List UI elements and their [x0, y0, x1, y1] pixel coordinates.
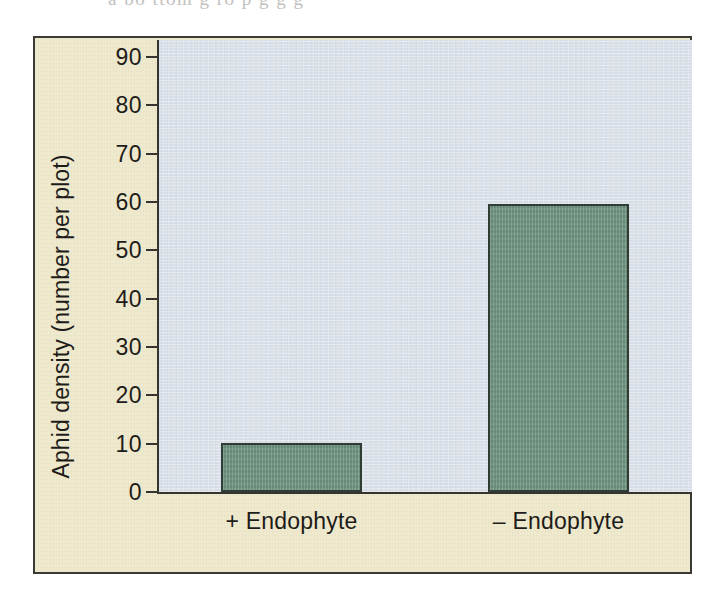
- y-axis-tick: [146, 201, 157, 203]
- bar-1: [221, 443, 362, 492]
- y-axis-tick: [146, 491, 157, 493]
- figure-frame: 0102030405060708090 Aphid density (numbe…: [33, 36, 692, 574]
- y-axis-tick-label: 50: [116, 237, 142, 264]
- y-axis-tick: [146, 298, 157, 300]
- y-axis-tick-label: 0: [129, 479, 142, 506]
- x-axis-line: [157, 492, 692, 494]
- top-text-fragment: a bo ttom g ro p g g g: [108, 0, 608, 10]
- y-axis-tick: [146, 443, 157, 445]
- y-axis-tick-label: 70: [116, 140, 142, 167]
- y-axis-tick-label: 90: [116, 44, 142, 71]
- x-axis-category-label: – Endophyte: [493, 508, 624, 535]
- y-axis-tick-label: 10: [116, 430, 142, 457]
- y-axis-tick-label: 30: [116, 334, 142, 361]
- bar-2: [488, 204, 629, 492]
- y-axis-title: Aphid density (number per plot): [48, 17, 75, 606]
- y-axis-tick-label: 20: [116, 382, 142, 409]
- y-axis-tick: [146, 394, 157, 396]
- y-axis-tick: [146, 249, 157, 251]
- y-axis-tick: [146, 56, 157, 58]
- x-axis-category-label: + Endophyte: [225, 508, 357, 535]
- y-axis-tick: [146, 346, 157, 348]
- y-axis-tick: [146, 153, 157, 155]
- y-axis-tick: [146, 104, 157, 106]
- y-axis-tick-label: 60: [116, 189, 142, 216]
- y-axis-tick-label: 80: [116, 92, 142, 119]
- y-axis-tick-label: 40: [116, 285, 142, 312]
- y-axis-line: [157, 40, 159, 493]
